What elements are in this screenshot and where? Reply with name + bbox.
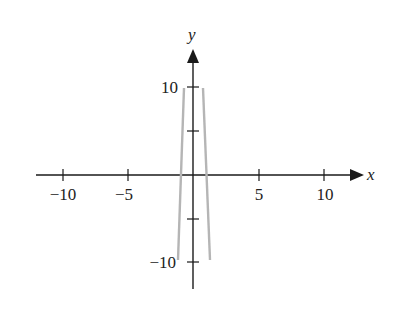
x-axis-arrow-icon	[350, 169, 364, 181]
graph: −10 −5 5 10 10 −10 x y	[0, 0, 401, 312]
x-tick-label-neg5: −5	[115, 185, 133, 204]
y-axis-arrow-icon	[187, 49, 199, 63]
y-tick-label-neg10: −10	[149, 253, 176, 272]
x-tick-label-10: 10	[317, 185, 334, 204]
curve-left-branch	[178, 88, 184, 260]
x-axis-label: x	[366, 165, 375, 184]
y-tick-label-10: 10	[161, 78, 178, 97]
y-axis-label: y	[186, 25, 196, 44]
x-tick-label-5: 5	[255, 185, 264, 204]
x-tick-label-neg10: −10	[50, 185, 77, 204]
curve-right-branch	[203, 88, 210, 260]
